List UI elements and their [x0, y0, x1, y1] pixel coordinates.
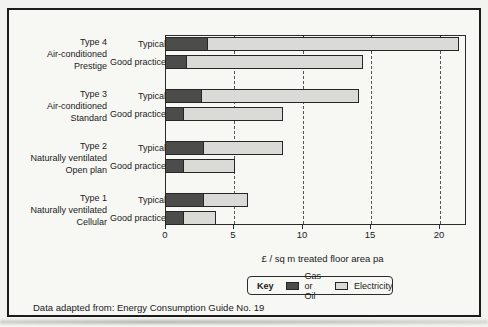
bar-row-label: Typical [69, 143, 166, 153]
gridline-20 [440, 36, 441, 224]
bar-row [165, 141, 283, 155]
gas-or-oil-segment [166, 56, 187, 68]
electricity-segment [202, 90, 358, 102]
scan-edge-artifact [0, 320, 488, 324]
gas-or-oil-segment [166, 160, 184, 172]
electricity-segment [187, 56, 362, 68]
x-tick-label-15: 15 [355, 229, 385, 240]
bar-row-label: Good practice [69, 161, 166, 171]
bar-row-label: Good practice [69, 109, 166, 119]
legend-box: Key Gas or Oil Electricity [247, 276, 393, 295]
electricity-segment [184, 160, 234, 172]
bar-row [165, 211, 216, 225]
bar-row [165, 89, 359, 103]
x-tick-label-5: 5 [218, 229, 248, 240]
x-tick-label-0: 0 [150, 229, 180, 240]
legend-item-electricity-label: Electricity [354, 281, 393, 291]
x-tick-label-20: 20 [424, 229, 454, 240]
bar-row-label: Typical [69, 195, 166, 205]
bar-row [165, 37, 459, 51]
gas-or-oil-segment [166, 142, 204, 154]
legend-item-gas-label: Gas or Oil [305, 271, 322, 301]
gas-or-oil-segment [166, 194, 204, 206]
x-axis-title: £ / sq m treated floor area pa [172, 253, 473, 264]
gas-or-oil-segment [166, 90, 202, 102]
gas-or-oil-segment [166, 38, 208, 50]
bar-row [165, 193, 248, 207]
legend-swatch-electricity-icon [335, 282, 348, 290]
bar-row-label: Good practice [69, 213, 166, 223]
bar-row [165, 107, 283, 121]
electricity-segment [184, 212, 215, 224]
legend-title: Key [257, 281, 274, 291]
x-tick-label-10: 10 [287, 229, 317, 240]
gridline-15 [371, 36, 372, 224]
electricity-segment [204, 142, 282, 154]
figure-frame: 05101520 Type 4Air-conditionedPrestigeTy… [7, 8, 481, 317]
electricity-segment [204, 194, 247, 206]
bar-row-label: Typical [69, 91, 166, 101]
bar-row [165, 159, 235, 173]
bar-row-label: Typical [69, 39, 166, 49]
gas-or-oil-segment [166, 108, 184, 120]
electricity-segment [184, 108, 282, 120]
source-note: Data adapted from: Energy Consumption Gu… [33, 302, 264, 313]
bar-row [165, 55, 363, 69]
bar-row-label: Good practice [69, 57, 166, 67]
gas-or-oil-segment [166, 212, 184, 224]
legend-swatch-gas-icon [286, 282, 299, 290]
electricity-segment [208, 38, 458, 50]
